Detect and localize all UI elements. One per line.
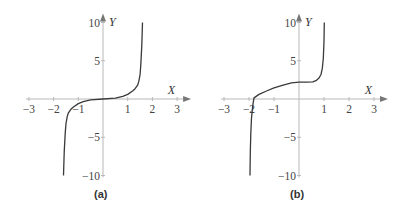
x-axis-arrow-icon xyxy=(380,96,388,102)
y-tick-label: 5 xyxy=(290,55,296,67)
x-axis-arrow-icon xyxy=(183,96,191,102)
caption-b: (b) xyxy=(290,188,304,200)
y-axis-arrow-icon xyxy=(100,14,106,22)
y-tick-label: −10 xyxy=(82,170,100,182)
y-tick-label: −10 xyxy=(278,170,296,182)
x-tick-label: −3 xyxy=(23,103,35,115)
x-tick-label: 1 xyxy=(125,103,131,115)
x-tick-label: −2 xyxy=(47,103,59,115)
chart-b: −3−2−1123105−5−10XY xyxy=(197,0,394,212)
panel-a: −3−2−1123105−5−10XY (a) xyxy=(0,0,197,212)
x-tick-label: −3 xyxy=(218,103,230,115)
x-tick-label: 3 xyxy=(371,103,377,115)
y-tick-label: 10 xyxy=(89,17,101,29)
y-tick-label: −5 xyxy=(284,131,296,143)
panel-b: −3−2−1123105−5−10XY (b) xyxy=(197,0,394,212)
y-axis-label: Y xyxy=(109,15,117,29)
x-axis-label: X xyxy=(364,83,373,97)
y-tick-label: −5 xyxy=(88,131,100,143)
x-tick-label: 2 xyxy=(346,103,352,115)
y-axis-arrow-icon xyxy=(296,14,302,22)
y-tick-label: 10 xyxy=(285,17,297,29)
x-tick-label: −1 xyxy=(72,103,84,115)
chart-a: −3−2−1123105−5−10XY xyxy=(0,0,197,212)
x-axis-label: X xyxy=(167,83,176,97)
x-tick-label: −1 xyxy=(268,103,280,115)
y-axis-label: Y xyxy=(305,15,313,29)
x-tick-label: 1 xyxy=(321,103,327,115)
x-tick-label: 2 xyxy=(150,103,156,115)
x-tick-label: 3 xyxy=(174,103,180,115)
caption-a: (a) xyxy=(94,188,107,200)
y-tick-label: 5 xyxy=(94,55,100,67)
